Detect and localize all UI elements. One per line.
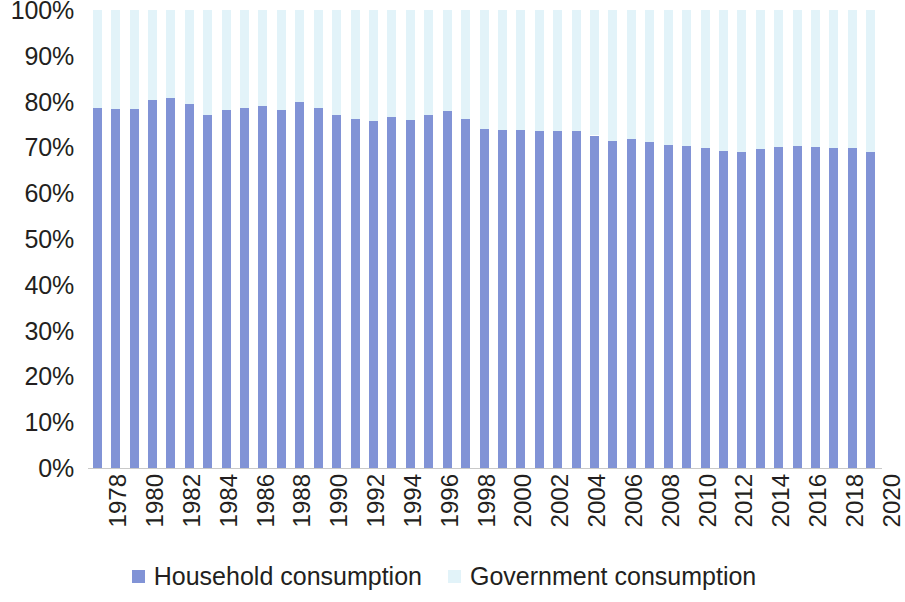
bar-segment-household-consumption[interactable] <box>627 139 636 468</box>
bar-column[interactable] <box>111 10 120 468</box>
bar-segment-government-consumption[interactable] <box>590 10 599 135</box>
bar-segment-household-consumption[interactable] <box>387 117 396 468</box>
bar-segment-government-consumption[interactable] <box>277 10 286 110</box>
bar-segment-government-consumption[interactable] <box>516 10 525 130</box>
bar-segment-household-consumption[interactable] <box>498 130 507 468</box>
bar-column[interactable] <box>240 10 249 468</box>
bar-segment-household-consumption[interactable] <box>774 147 783 468</box>
bar-column[interactable] <box>645 10 654 468</box>
bar-column[interactable] <box>829 10 838 468</box>
bar-column[interactable] <box>590 10 599 468</box>
bar-segment-household-consumption[interactable] <box>572 131 581 468</box>
bar-column[interactable] <box>627 10 636 468</box>
bar-column[interactable] <box>664 10 673 468</box>
bar-segment-household-consumption[interactable] <box>608 141 617 468</box>
bar-column[interactable] <box>203 10 212 468</box>
bar-segment-government-consumption[interactable] <box>701 10 710 148</box>
bar-column[interactable] <box>572 10 581 468</box>
bar-segment-household-consumption[interactable] <box>203 115 212 468</box>
bar-segment-government-consumption[interactable] <box>387 10 396 117</box>
bar-segment-household-consumption[interactable] <box>406 120 415 468</box>
bar-segment-government-consumption[interactable] <box>406 10 415 120</box>
bar-column[interactable] <box>553 10 562 468</box>
bar-segment-government-consumption[interactable] <box>480 10 489 129</box>
bar-column[interactable] <box>277 10 286 468</box>
bar-segment-household-consumption[interactable] <box>793 146 802 468</box>
bar-column[interactable] <box>480 10 489 468</box>
bar-segment-household-consumption[interactable] <box>756 149 765 468</box>
bar-column[interactable] <box>608 10 617 468</box>
bar-segment-government-consumption[interactable] <box>295 10 304 102</box>
bar-column[interactable] <box>185 10 194 468</box>
bar-segment-government-consumption[interactable] <box>369 10 378 121</box>
bar-segment-government-consumption[interactable] <box>774 10 783 147</box>
bar-segment-government-consumption[interactable] <box>443 10 452 111</box>
bar-column[interactable] <box>314 10 323 468</box>
bar-segment-government-consumption[interactable] <box>535 10 544 131</box>
bar-segment-household-consumption[interactable] <box>701 148 710 468</box>
bar-segment-household-consumption[interactable] <box>258 106 267 468</box>
bar-segment-household-consumption[interactable] <box>369 121 378 468</box>
bar-column[interactable] <box>461 10 470 468</box>
bar-segment-government-consumption[interactable] <box>664 10 673 145</box>
bar-segment-government-consumption[interactable] <box>461 10 470 119</box>
bar-column[interactable] <box>719 10 728 468</box>
bar-segment-government-consumption[interactable] <box>93 10 102 108</box>
bar-column[interactable] <box>406 10 415 468</box>
bar-segment-household-consumption[interactable] <box>866 152 875 468</box>
bar-segment-household-consumption[interactable] <box>553 131 562 468</box>
bar-column[interactable] <box>756 10 765 468</box>
bar-segment-household-consumption[interactable] <box>443 111 452 468</box>
bar-column[interactable] <box>811 10 820 468</box>
bar-column[interactable] <box>130 10 139 468</box>
bar-column[interactable] <box>387 10 396 468</box>
bar-segment-household-consumption[interactable] <box>737 152 746 468</box>
bar-column[interactable] <box>535 10 544 468</box>
bar-segment-government-consumption[interactable] <box>719 10 728 151</box>
bar-segment-household-consumption[interactable] <box>351 119 360 468</box>
bar-column[interactable] <box>369 10 378 468</box>
bar-segment-government-consumption[interactable] <box>553 10 562 131</box>
bar-segment-government-consumption[interactable] <box>627 10 636 139</box>
bar-column[interactable] <box>258 10 267 468</box>
bar-column[interactable] <box>848 10 857 468</box>
bar-segment-government-consumption[interactable] <box>222 10 231 110</box>
bar-segment-government-consumption[interactable] <box>756 10 765 149</box>
bar-segment-household-consumption[interactable] <box>516 130 525 468</box>
bar-column[interactable] <box>351 10 360 468</box>
bar-segment-household-consumption[interactable] <box>645 142 654 468</box>
bar-segment-government-consumption[interactable] <box>608 10 617 141</box>
bar-segment-household-consumption[interactable] <box>461 119 470 468</box>
bar-segment-government-consumption[interactable] <box>240 10 249 108</box>
bar-segment-household-consumption[interactable] <box>277 110 286 468</box>
bar-column[interactable] <box>443 10 452 468</box>
bar-segment-household-consumption[interactable] <box>590 136 599 469</box>
bar-column[interactable] <box>516 10 525 468</box>
bar-segment-government-consumption[interactable] <box>314 10 323 108</box>
bar-segment-household-consumption[interactable] <box>424 115 433 468</box>
bar-segment-government-consumption[interactable] <box>332 10 341 115</box>
bar-column[interactable] <box>682 10 691 468</box>
bar-segment-household-consumption[interactable] <box>314 108 323 468</box>
bar-segment-household-consumption[interactable] <box>148 100 157 468</box>
bar-segment-household-consumption[interactable] <box>93 108 102 468</box>
bar-segment-government-consumption[interactable] <box>793 10 802 146</box>
bar-column[interactable] <box>148 10 157 468</box>
bar-column[interactable] <box>222 10 231 468</box>
bar-segment-government-consumption[interactable] <box>203 10 212 115</box>
bar-segment-household-consumption[interactable] <box>185 104 194 468</box>
bar-segment-household-consumption[interactable] <box>535 131 544 468</box>
bar-column[interactable] <box>866 10 875 468</box>
legend-item[interactable]: Household consumption <box>132 564 422 589</box>
bar-segment-government-consumption[interactable] <box>166 10 175 98</box>
bar-segment-household-consumption[interactable] <box>295 102 304 468</box>
bar-segment-government-consumption[interactable] <box>848 10 857 148</box>
bar-segment-government-consumption[interactable] <box>258 10 267 106</box>
bar-segment-government-consumption[interactable] <box>682 10 691 146</box>
bar-segment-household-consumption[interactable] <box>682 146 691 468</box>
bar-segment-government-consumption[interactable] <box>829 10 838 148</box>
bar-segment-household-consumption[interactable] <box>332 115 341 468</box>
bar-segment-government-consumption[interactable] <box>148 10 157 100</box>
bar-column[interactable] <box>332 10 341 468</box>
bar-column[interactable] <box>295 10 304 468</box>
